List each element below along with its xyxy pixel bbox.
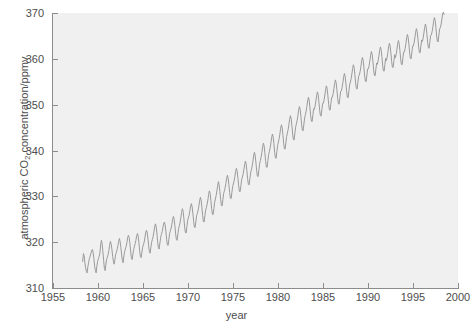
x-tick-label-2000: 2000 xyxy=(438,292,473,303)
y-axis-title-prefix: atmospheric CO xyxy=(18,160,30,239)
x-tick-1965 xyxy=(143,283,144,288)
y-axis-title: atmospheric CO2 concentration/ppmv xyxy=(18,18,30,278)
x-tick-label-1955: 1955 xyxy=(33,292,73,303)
y-tick-370 xyxy=(53,13,58,14)
y-tick-320 xyxy=(53,242,58,243)
y-axis-title-suffix: concentration/ppmv xyxy=(18,57,30,156)
x-tick-label-1990: 1990 xyxy=(348,292,388,303)
x-tick-1960 xyxy=(98,283,99,288)
x-tick-label-1985: 1985 xyxy=(303,292,343,303)
y-tick-350 xyxy=(53,105,58,106)
x-tick-1970 xyxy=(188,283,189,288)
x-tick-1985 xyxy=(323,283,324,288)
x-tick-label-1970: 1970 xyxy=(168,292,208,303)
x-tick-1990 xyxy=(368,283,369,288)
y-tick-310 xyxy=(53,288,58,289)
x-axis-title: year xyxy=(0,309,473,321)
x-axis-line xyxy=(52,288,459,289)
x-tick-1975 xyxy=(233,283,234,288)
x-tick-1980 xyxy=(278,283,279,288)
x-tick-2000 xyxy=(458,283,459,288)
y-tick-330 xyxy=(53,196,58,197)
y-tick-360 xyxy=(53,59,58,60)
x-tick-label-1965: 1965 xyxy=(123,292,163,303)
x-tick-label-1995: 1995 xyxy=(393,292,433,303)
plot-area xyxy=(52,13,458,288)
y-axis-title-subscript: 2 xyxy=(23,156,32,160)
co2-line-chart-figure: 370 360 350 340 330 320 310 1955 1960 19… xyxy=(0,0,473,327)
x-tick-label-1960: 1960 xyxy=(78,292,118,303)
x-tick-label-1980: 1980 xyxy=(258,292,298,303)
y-tick-340 xyxy=(53,151,58,152)
x-tick-label-1975: 1975 xyxy=(213,292,253,303)
x-tick-1955 xyxy=(53,283,54,288)
x-tick-1995 xyxy=(413,283,414,288)
